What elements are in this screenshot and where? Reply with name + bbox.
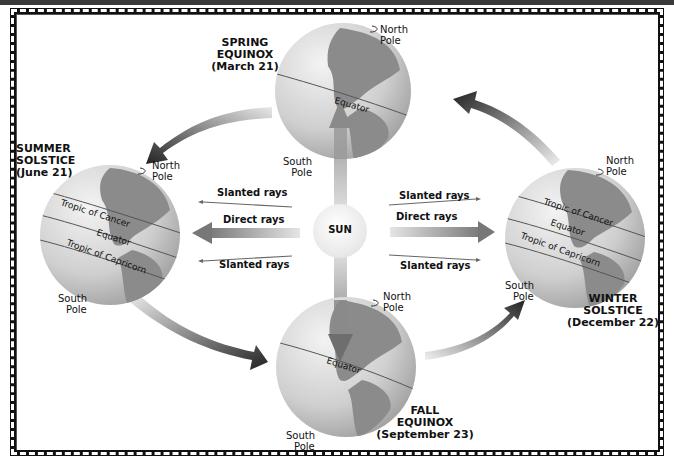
orbit-arrow-spring-to-summer — [146, 107, 272, 164]
label-line: South — [505, 280, 534, 291]
label-line: Pole — [58, 304, 87, 315]
spring-equinox-title: SPRING EQUINOX (March 21) — [205, 37, 285, 73]
summer-south-pole-label: South Pole — [58, 293, 87, 315]
right-direct-rays: Direct rays — [396, 211, 457, 222]
winter-south-pole-label: South Pole — [505, 280, 534, 302]
fall-title-line3: (September 23) — [375, 429, 475, 441]
summer-title-line3: (June 21) — [16, 167, 80, 179]
direct-ray-left — [192, 222, 300, 244]
winter-north-pole-label: North Pole — [606, 155, 634, 177]
winter-title-line3: (December 22) — [565, 317, 661, 329]
label-line: Pole — [283, 167, 312, 178]
summer-north-pole-label: North Pole — [152, 160, 180, 182]
label-line: North — [383, 291, 411, 302]
label-line: South — [58, 293, 87, 304]
orbit-arrow-fall-to-winter — [425, 300, 525, 360]
fall-south-pole-label: South Pole — [286, 430, 315, 452]
spring-south-pole-label: South Pole — [283, 156, 312, 178]
left-direct-rays: Direct rays — [223, 214, 284, 225]
left-slanted-rays-bottom: Slanted rays — [219, 259, 290, 270]
right-slanted-rays-bottom: Slanted rays — [400, 260, 471, 271]
winter-solstice-title: WINTER SOLSTICE (December 22) — [565, 293, 661, 329]
right-slanted-rays-top: Slanted rays — [399, 190, 470, 201]
fall-equinox-title: FALL EQUINOX (September 23) — [375, 405, 475, 441]
label-line: South — [286, 430, 315, 441]
label-line: North — [380, 24, 408, 35]
direct-ray-right — [390, 221, 495, 243]
label-line: North — [152, 160, 180, 171]
orbit-arrow-summer-to-fall — [130, 296, 268, 370]
label-line: Pole — [152, 171, 180, 182]
fall-north-pole-label: North Pole — [383, 291, 411, 313]
spring-title-line3: (March 21) — [205, 61, 285, 73]
label-line: Pole — [383, 302, 411, 313]
left-slanted-rays-top: Slanted rays — [217, 187, 288, 198]
sun-label: SUN — [315, 224, 365, 235]
orbit-arrow-winter-to-spring — [453, 91, 560, 166]
label-line: Pole — [606, 166, 634, 177]
label-line: Pole — [286, 441, 315, 452]
label-line: North — [606, 155, 634, 166]
summer-solstice-title: SUMMER SOLSTICE (June 21) — [16, 143, 80, 179]
label-line: Pole — [380, 35, 408, 46]
label-line: South — [283, 156, 312, 167]
label-line: Pole — [505, 291, 534, 302]
spring-north-pole-label: North Pole — [380, 24, 408, 46]
